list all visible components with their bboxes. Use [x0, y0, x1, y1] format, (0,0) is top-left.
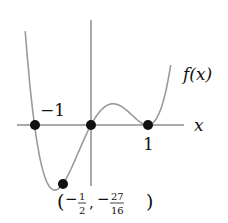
svg-text:1: 1 [79, 191, 85, 202]
point-one [143, 120, 153, 130]
label-one: 1 [143, 134, 154, 154]
label-neg-one: −1 [40, 100, 65, 120]
svg-text:16: 16 [111, 205, 124, 216]
svg-text:−: − [97, 190, 110, 208]
svg-text:27: 27 [111, 191, 124, 202]
label-minimum-point: ( − 1 2 , − 27 16 ) [57, 190, 153, 216]
svg-text:): ) [146, 190, 153, 212]
svg-text:(: ( [57, 190, 64, 212]
svg-text:2: 2 [79, 205, 85, 216]
svg-text:−: − [65, 190, 78, 208]
function-label: f(x) [181, 64, 212, 84]
svg-text:,: , [89, 194, 94, 212]
point-neg-one [30, 120, 40, 130]
x-axis-label: x [194, 115, 204, 135]
function-graph: −1 1 x f(x) ( − 1 2 , − 27 16 ) [0, 0, 228, 223]
point-origin [86, 120, 96, 130]
point-minimum [58, 179, 68, 189]
